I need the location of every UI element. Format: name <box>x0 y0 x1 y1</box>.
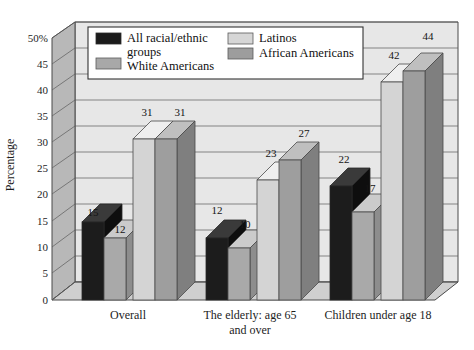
legend-label-line1: Latinos <box>259 31 297 45</box>
y-tick-20: 20 <box>37 188 49 200</box>
category-label-overall: Overall <box>110 308 147 322</box>
category-label-children: Children under age 18 <box>325 308 432 322</box>
bar-front <box>330 186 352 300</box>
y-tick-10: 10 <box>37 241 49 253</box>
bar-front <box>257 180 279 300</box>
legend-swatch-icon <box>228 48 253 59</box>
y-tick-15: 15 <box>37 215 49 227</box>
legend-swatch-icon <box>96 58 121 69</box>
value-label-african-american-overall: 31 <box>175 106 186 118</box>
value-label-all-racial-elderly: 12 <box>212 204 223 216</box>
value-label-latinos-children: 42 <box>389 49 400 61</box>
value-label-white-overall: 12 <box>115 223 126 235</box>
chart-canvas: Percentage 50% 45 40 35 30 25 20 15 10 5… <box>0 0 474 350</box>
bar-front <box>279 160 301 300</box>
bar-front <box>381 82 403 300</box>
legend: All racial/ethnic groups White Americans… <box>88 27 363 79</box>
bar-african-american-children[interactable] <box>403 53 443 300</box>
value-label-latinos-elderly: 23 <box>266 147 278 159</box>
bar-front <box>133 139 155 300</box>
y-tick-45: 45 <box>37 58 49 70</box>
legend-item-african-americans[interactable]: African Americans <box>228 46 354 60</box>
x-axis-labels: Overall The elderly: age 65 and over Chi… <box>110 308 431 337</box>
value-label-white-children: 17 <box>365 182 377 194</box>
y-tick-35: 35 <box>37 110 49 122</box>
y-axis-title: Percentage <box>3 139 17 192</box>
value-label-all-racial-children: 22 <box>339 153 350 165</box>
legend-label-line1: All racial/ethnic <box>127 31 208 45</box>
bar-side <box>425 53 443 300</box>
bar-front <box>155 139 177 300</box>
bar-front <box>352 212 374 300</box>
legend-label-line2: groups <box>127 45 161 59</box>
bar-african-american-elderly[interactable] <box>279 142 319 300</box>
value-label-white-elderly: 10 <box>240 218 252 230</box>
y-tick-50: 50% <box>28 32 48 44</box>
y-axis: Percentage 50% 45 40 35 30 25 20 15 10 5… <box>3 32 49 306</box>
y-tick-25: 25 <box>37 162 49 174</box>
y-tick-40: 40 <box>37 84 49 96</box>
value-label-all-racial-overall: 15 <box>88 206 100 218</box>
value-label-african-american-children: 44 <box>423 30 435 42</box>
category-label-elderly-line2: and over <box>229 323 271 337</box>
value-label-african-american-elderly: 27 <box>299 127 311 139</box>
bar-african-american-overall[interactable] <box>155 121 195 300</box>
y-tick-30: 30 <box>37 136 49 148</box>
legend-label-line1: African Americans <box>259 46 354 60</box>
bar-chart-figure: Percentage 50% 45 40 35 30 25 20 15 10 5… <box>0 0 474 350</box>
bar-front <box>104 238 126 300</box>
bar-front <box>228 248 250 300</box>
legend-label-line1: White Americans <box>127 59 214 73</box>
y-tick-5: 5 <box>43 267 49 279</box>
legend-item-latinos[interactable]: Latinos <box>228 31 297 45</box>
bar-front <box>206 238 228 300</box>
bar-side <box>177 121 195 300</box>
legend-swatch-icon <box>228 33 253 44</box>
y-tick-0: 0 <box>43 294 49 306</box>
bar-front <box>403 71 425 300</box>
legend-swatch-icon <box>96 33 121 44</box>
category-label-elderly-line1: The elderly: age 65 <box>204 308 297 322</box>
value-label-latinos-overall: 31 <box>142 106 153 118</box>
bar-front <box>82 222 104 300</box>
bar-side <box>301 142 319 300</box>
